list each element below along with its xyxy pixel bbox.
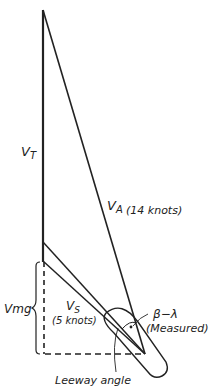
leeway-angle-label: Leeway angle bbox=[55, 374, 131, 387]
vs-vector-line-lower bbox=[43, 261, 145, 354]
va-label: VA bbox=[107, 198, 123, 215]
vs-vector-line-upper bbox=[43, 242, 145, 354]
va-vector-line bbox=[43, 10, 145, 354]
vt-label: VT bbox=[21, 144, 37, 161]
velocity-triangle-diagram: VT VA (14 knots) VS (5 knots) Vmg β−λ (M… bbox=[0, 0, 220, 392]
vs-speed-label: (5 knots) bbox=[52, 315, 97, 326]
va-speed-label: (14 knots) bbox=[126, 204, 182, 217]
vmg-brace bbox=[32, 262, 40, 354]
beta-lambda-label: β−λ bbox=[152, 307, 178, 321]
measured-point bbox=[130, 326, 133, 329]
beta-lambda-arc bbox=[122, 322, 136, 329]
vmg-label: Vmg bbox=[4, 302, 32, 316]
measured-label: (Measured) bbox=[146, 322, 209, 335]
vs-label: VS bbox=[66, 299, 80, 315]
